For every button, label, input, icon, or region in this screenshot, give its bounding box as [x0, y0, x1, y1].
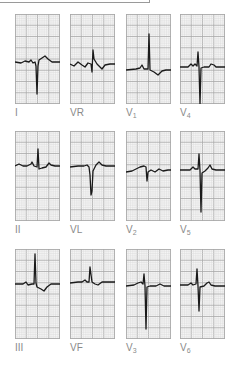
lead-subscript: 5	[187, 229, 191, 236]
ecg-grid	[126, 249, 171, 339]
ecg-panel-v1	[126, 14, 171, 104]
lead-subscript: 3	[133, 347, 137, 354]
lead-subscript: 2	[133, 229, 137, 236]
ecg-grid	[15, 131, 60, 221]
lead-name: I	[15, 107, 18, 118]
lead-name: III	[15, 342, 23, 353]
lead-name: V	[126, 107, 133, 118]
lead-label-vl: VL	[70, 225, 82, 235]
lead-name: V	[180, 224, 187, 235]
ecg-grid	[180, 131, 225, 221]
lead-subscript: 6	[187, 347, 191, 354]
ecg-grid	[70, 131, 115, 221]
lead-label-v1: V1	[126, 108, 137, 118]
lead-name: V	[180, 342, 187, 353]
ecg-panel-vr	[70, 14, 115, 104]
ecg-grid	[180, 249, 225, 339]
ecg-grid	[70, 14, 115, 104]
ecg-grid	[15, 14, 60, 104]
ecg-panel-i	[15, 14, 60, 104]
lead-label-v5: V5	[180, 225, 191, 235]
lead-label-i: I	[15, 108, 18, 118]
ecg-grid	[180, 14, 225, 104]
ecg-panel-v5	[180, 131, 225, 221]
ecg-panel-v3	[126, 249, 171, 339]
lead-name: VL	[70, 224, 82, 235]
lead-name: VF	[70, 342, 83, 353]
lead-name: V	[126, 342, 133, 353]
ecg-panel-iii	[15, 249, 60, 339]
lead-label-vr: VR	[70, 108, 84, 118]
ecg-grid	[126, 14, 171, 104]
ecg-panel-v2	[126, 131, 171, 221]
lead-label-iii: III	[15, 343, 23, 353]
top-border-tick	[149, 0, 150, 3]
ecg-panel-vf	[70, 249, 115, 339]
lead-name: II	[15, 224, 21, 235]
lead-name: VR	[70, 107, 84, 118]
lead-subscript: 4	[187, 112, 191, 119]
lead-label-ii: II	[15, 225, 21, 235]
lead-name: V	[126, 224, 133, 235]
ecg-grid	[15, 249, 60, 339]
ecg-panel-v4	[180, 14, 225, 104]
lead-label-v3: V3	[126, 343, 137, 353]
lead-name: V	[180, 107, 187, 118]
lead-label-v2: V2	[126, 225, 137, 235]
lead-label-v4: V4	[180, 108, 191, 118]
ecg-grid	[126, 131, 171, 221]
lead-label-vf: VF	[70, 343, 83, 353]
ecg-panel-ii	[15, 131, 60, 221]
lead-subscript: 1	[133, 112, 137, 119]
top-border-line	[0, 2, 150, 3]
ecg-panel-v6	[180, 249, 225, 339]
ecg-grid	[70, 249, 115, 339]
lead-label-v6: V6	[180, 343, 191, 353]
ecg-panel-vl	[70, 131, 115, 221]
